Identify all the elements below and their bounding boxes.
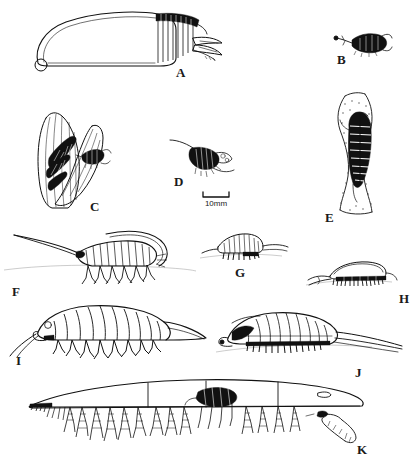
scale-bar-label: 10mm — [196, 200, 236, 208]
scale-bar: 10mm — [196, 191, 236, 208]
panel-d-illustration — [170, 140, 234, 177]
panel-e-illustration — [338, 93, 372, 214]
panel-label-j: J — [355, 366, 362, 379]
panel-label-g: G — [235, 266, 245, 279]
panel-c-illustration — [38, 113, 111, 208]
figure-plate: A B C D E F G H I J K 10mm — [0, 0, 417, 460]
panel-a-illustration — [35, 12, 222, 71]
panel-k-illustration — [29, 380, 363, 443]
panel-label-f: F — [12, 285, 20, 298]
panel-g-illustration — [200, 234, 288, 260]
panel-i-illustration — [10, 306, 206, 359]
panel-label-b: B — [337, 53, 346, 66]
panel-j-illustration — [216, 313, 402, 353]
panel-label-h: H — [399, 292, 409, 305]
panel-h-illustration — [306, 262, 397, 286]
panel-label-k: K — [357, 443, 367, 456]
panel-label-a: A — [176, 66, 186, 79]
panel-label-i: I — [16, 354, 21, 367]
scale-bar-graphic — [196, 191, 236, 199]
panel-label-d: D — [174, 175, 184, 188]
panel-f-illustration — [4, 231, 196, 284]
panel-label-e: E — [325, 211, 334, 224]
panel-label-c: C — [90, 200, 100, 213]
figure-artwork — [0, 0, 417, 460]
